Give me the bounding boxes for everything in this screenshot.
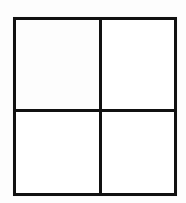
grid-cell-bottom-right[interactable] xyxy=(102,112,174,193)
grid-cell-bottom-left[interactable] xyxy=(16,112,99,193)
grid-cell-top-right[interactable] xyxy=(102,20,174,109)
vertical-divider xyxy=(99,17,102,196)
figure-root xyxy=(0,0,186,203)
horizontal-divider xyxy=(13,109,177,112)
grid-cell-top-left[interactable] xyxy=(16,20,99,109)
